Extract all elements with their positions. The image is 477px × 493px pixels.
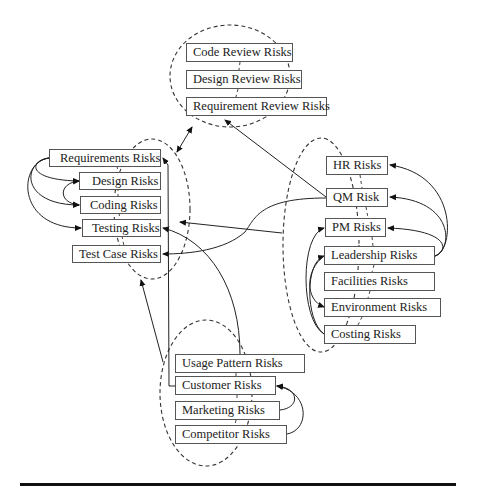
node-leadership-risks: Leadership Risks [324,246,435,265]
node-environment-risks: Environment Risks [324,298,441,317]
customer-to-requirements-arrow [163,158,175,386]
risk-diagram: Code Review Risks Design Review Risks Re… [0,0,477,493]
qm-to-test-case-arrow [163,198,326,254]
node-testing-risks: Testing Risks [82,219,161,237]
node-qm-risk: QM Risk [326,188,388,207]
node-facilities-risks: Facilities Risks [324,272,435,291]
node-usage-pattern-risks: Usage Pattern Risks [175,354,305,373]
node-costing-risks: Costing Risks [324,325,416,344]
node-code-review-risks: Code Review Risks [186,43,293,62]
node-customer-risks: Customer Risks [175,376,276,395]
market-to-development-arrow [141,280,163,362]
design-coding-arrow [63,181,79,205]
management-to-development-arrow [180,222,282,233]
node-coding-risks: Coding Risks [80,196,161,214]
node-requirement-review-risks: Requirement Review Risks [186,97,327,116]
usage-to-testing-arrow [163,228,240,354]
node-pm-risks: PM Risks [325,218,386,237]
node-design-review-risks: Design Review Risks [186,70,302,89]
node-competitor-risks: Competitor Risks [175,425,287,444]
review-development-arrow [177,127,192,152]
leadership-to-environment-arrow [310,256,324,307]
node-marketing-risks: Marketing Risks [175,401,280,420]
leadership-to-hr-arrow [390,165,447,256]
node-requirements-risks: Requirements Risks [49,149,161,167]
node-test-case-risks: Test Case Risks [72,245,161,263]
node-hr-risks: HR Risks [326,156,388,175]
horizontal-rule [20,483,456,486]
node-design-risks: Design Risks [79,172,161,190]
costing-to-pm-arrow [306,228,324,334]
qm-to-requirement-review-arrow [225,120,326,197]
